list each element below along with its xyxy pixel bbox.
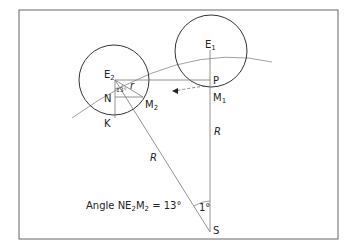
label-k: K: [104, 118, 111, 129]
label-s: S: [213, 225, 219, 236]
arrowhead-icon: [172, 88, 178, 94]
label-e2: E2: [104, 69, 115, 82]
label-angle-1: 1°: [199, 202, 210, 213]
label-m2: M2: [145, 99, 158, 112]
label-r: r: [130, 80, 135, 91]
label-n: N: [104, 93, 111, 104]
diagram-canvas: E1 E2 P M1 M2 N K S r R R 13° 1° Angle N…: [0, 0, 353, 252]
label-r-diagonal: R: [150, 152, 157, 163]
orbit-arc: [72, 57, 272, 118]
label-angle-13: 13°: [116, 86, 127, 93]
label-e1: E1: [205, 39, 216, 52]
label-p: P: [213, 75, 219, 86]
label-m1: M1: [213, 92, 226, 105]
label-r-vertical: R: [214, 126, 221, 137]
angle-caption: Angle NE2M2 = 13°: [86, 200, 181, 213]
motion-arrow: [175, 86, 205, 91]
